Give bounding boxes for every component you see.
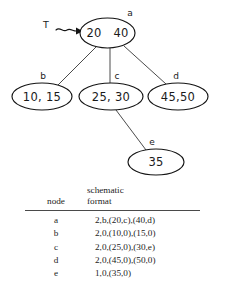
column-header-format-line2: format (87, 196, 200, 207)
table-header-row: node schematic format (25, 185, 200, 208)
table-row: d 2,0,(45,0),(50,0) (25, 254, 200, 267)
row-node-b: b (25, 228, 87, 241)
figure-page: T 20 40 a 10, 15 b 25, 30 c (0, 0, 225, 300)
squiggly-arrow-icon (56, 29, 76, 31)
row-format-b: 2,0,(10,0),(15,0) (87, 228, 200, 241)
tree-node-c: 25, 30 c (79, 71, 143, 110)
row-node-a: a (25, 215, 87, 228)
edge-a-to-b (58, 46, 97, 85)
table-header: node schematic format (25, 185, 200, 215)
tree-node-a: 20 40 a (80, 8, 135, 48)
root-pointer: T (42, 19, 83, 34)
tree-diagram-canvas: T 20 40 a 10, 15 b 25, 30 c (0, 0, 225, 185)
table-row: a 2,b,(20,c),(40,d) (25, 215, 200, 228)
node-d-value: 45,50 (161, 90, 195, 104)
node-c-label: c (115, 71, 120, 81)
tree-node-d: 45,50 d (148, 71, 208, 110)
node-a-key-1: 40 (113, 26, 128, 40)
column-header-format-line1: schematic (87, 185, 200, 196)
row-node-d: d (25, 254, 87, 267)
column-header-node-label: node (25, 196, 87, 207)
node-d-label: d (173, 71, 179, 81)
table-row: e 1,0,(35,0) (25, 267, 200, 280)
table-body: a 2,b,(20,c),(40,d) b 2,0,(10,0),(15,0) … (25, 215, 200, 281)
node-e-value: 35 (148, 155, 163, 169)
column-header-format: schematic format (87, 185, 200, 208)
row-format-e: 1,0,(35,0) (87, 267, 200, 280)
row-format-a: 2,b,(20,c),(40,d) (87, 215, 200, 228)
tree-node-e: 35 e (128, 137, 184, 175)
node-e-label: e (149, 137, 155, 147)
tree-diagram: T 20 40 a 10, 15 b 25, 30 c (0, 0, 225, 185)
schematic-format-table: node schematic format (0, 185, 225, 300)
tree-node-b: 10, 15 b (12, 71, 72, 110)
node-b-value: 10, 15 (23, 90, 61, 104)
row-format-c: 2,0,(25,0),(30,e) (87, 241, 200, 254)
column-header-node: node (25, 185, 87, 208)
format-table-element: node schematic format (25, 185, 200, 280)
row-node-c: c (25, 241, 87, 254)
edge-a-to-d (124, 46, 166, 84)
node-a-label: a (127, 8, 133, 18)
edge-c-to-e (116, 110, 146, 150)
pointer-label-T: T (42, 19, 49, 30)
table-row: c 2,0,(25,0),(30,e) (25, 241, 200, 254)
table-row: b 2,0,(10,0),(15,0) (25, 228, 200, 241)
node-b-label: b (40, 71, 46, 81)
row-node-e: e (25, 267, 87, 280)
node-c-value: 25, 30 (92, 90, 130, 104)
node-a-key-0: 20 (86, 26, 101, 40)
row-format-d: 2,0,(45,0),(50,0) (87, 254, 200, 267)
